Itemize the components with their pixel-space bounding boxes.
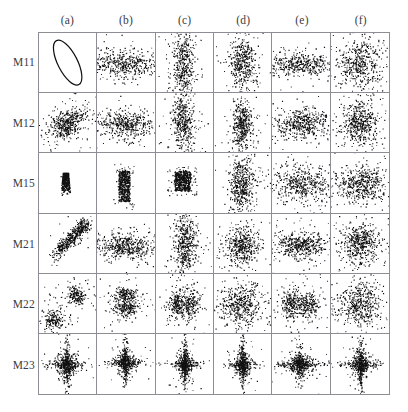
scatter-cell-m12-e (272, 93, 330, 153)
scatter-cell-m15-a (39, 153, 97, 213)
scatter-cell-m11-e (272, 33, 330, 93)
column-header-a: (a) (38, 10, 97, 30)
scatter-cell-m12-d (214, 93, 272, 153)
column-header-f: (f) (331, 10, 390, 30)
scatter-cell-m23-d (214, 334, 272, 394)
scatter-cell-m22-f (331, 274, 389, 334)
column-header-e: (e) (273, 10, 332, 30)
row-label-m23: M23 (2, 335, 38, 396)
row-label-m12: M12 (2, 93, 38, 154)
row-label-column: M11 M12 M15 M21 M22 M23 (2, 32, 38, 395)
scatter-plot-matrix-figure: (a) (b) (c) (d) (e) (f) M11 M12 M15 M21 … (0, 0, 408, 412)
scatter-cell-m15-c (156, 153, 214, 213)
scatter-cell-m12-c (156, 93, 214, 153)
scatter-cell-m15-d (214, 153, 272, 213)
scatter-cell-m12-f (331, 93, 389, 153)
scatter-cell-m22-d (214, 274, 272, 334)
scatter-cell-m23-a (39, 334, 97, 394)
scatter-cell-m21-c (156, 214, 214, 274)
row-label-m11: M11 (2, 32, 38, 93)
column-header-d: (d) (214, 10, 273, 30)
scatter-cell-m21-e (272, 214, 330, 274)
scatter-cell-m11-a (39, 33, 97, 93)
scatter-cell-m23-c (156, 334, 214, 394)
column-header-b: (b) (97, 10, 156, 30)
scatter-cell-m22-b (97, 274, 155, 334)
scatter-cell-m22-e (272, 274, 330, 334)
scatter-cell-m15-f (331, 153, 389, 213)
scatter-cell-m12-b (97, 93, 155, 153)
scatter-cell-m21-f (331, 214, 389, 274)
row-label-m21: M21 (2, 214, 38, 275)
scatter-cell-m23-f (331, 334, 389, 394)
scatter-cell-m12-a (39, 93, 97, 153)
scatter-cell-m11-c (156, 33, 214, 93)
scatter-matrix-grid (38, 32, 390, 395)
scatter-cell-m21-d (214, 214, 272, 274)
scatter-cell-m11-f (331, 33, 389, 93)
scatter-cell-m22-c (156, 274, 214, 334)
scatter-cell-m22-a (39, 274, 97, 334)
scatter-cell-m15-e (272, 153, 330, 213)
scatter-cell-m21-a (39, 214, 97, 274)
scatter-cell-m23-e (272, 334, 330, 394)
scatter-cell-m11-b (97, 33, 155, 93)
row-label-m15: M15 (2, 153, 38, 214)
scatter-cell-m11-d (214, 33, 272, 93)
scatter-cell-m23-b (97, 334, 155, 394)
row-label-m22: M22 (2, 274, 38, 335)
scatter-cell-m15-b (97, 153, 155, 213)
scatter-cell-m21-b (97, 214, 155, 274)
column-header-row: (a) (b) (c) (d) (e) (f) (38, 10, 390, 30)
column-header-c: (c) (155, 10, 214, 30)
